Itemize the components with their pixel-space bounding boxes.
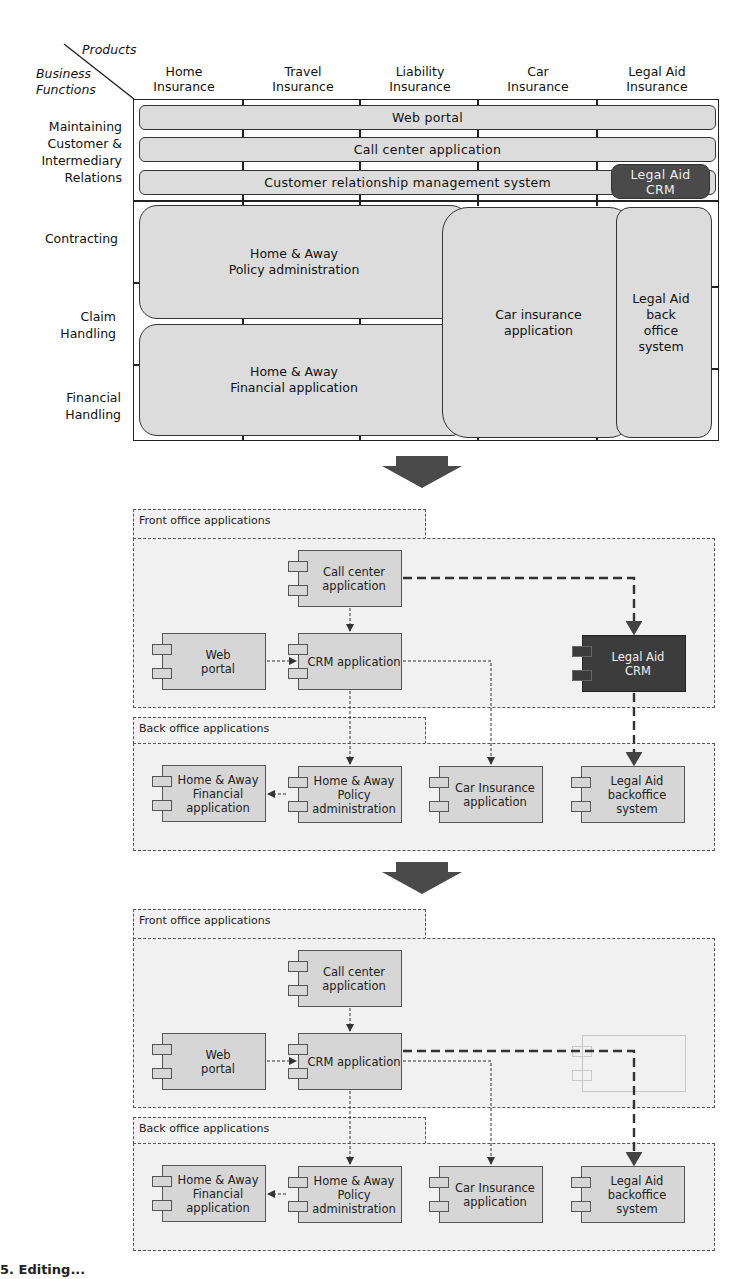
port-icon (288, 961, 308, 972)
component-crm-application[interactable]: CRM application (298, 1033, 402, 1090)
app-home-away-policy-admin[interactable]: Home & AwayPolicy administration (139, 205, 469, 319)
component-legal-aid-backoffice[interactable]: Legal Aidbackofficesystem (581, 1166, 685, 1223)
app-home-away-financial[interactable]: Home & AwayFinancial application (139, 324, 469, 436)
transition-arrow-down-icon (380, 862, 464, 894)
port-icon (288, 668, 308, 679)
app-web-portal[interactable]: Web portal (139, 105, 716, 130)
business-functions-axis-label: Business Functions (36, 66, 98, 98)
component-crm-application[interactable]: CRM application (298, 633, 402, 690)
port-icon (152, 1044, 172, 1055)
port-icon (152, 1068, 172, 1079)
port-icon (288, 1068, 308, 1079)
app-legal-aid-crm[interactable]: Legal AidCRM (611, 164, 710, 199)
component-call-center[interactable]: Call centerapplication (298, 550, 402, 607)
function-header-claim-handling: ClaimHandling (0, 308, 116, 342)
function-header-contracting: Contracting (0, 231, 118, 246)
port-icon (288, 585, 308, 596)
port-icon (429, 801, 449, 812)
product-header-car: CarInsurance (483, 64, 593, 94)
port-icon (288, 777, 308, 788)
port-icon (152, 644, 172, 655)
port-icon (288, 985, 308, 996)
port-icon (572, 646, 592, 657)
port-icon (152, 800, 172, 811)
figure-caption-partial: 5. Editing... (0, 1262, 85, 1277)
port-icon (288, 1201, 308, 1212)
port-icon (288, 1044, 308, 1055)
app-car-insurance[interactable]: Car insuranceapplication (442, 207, 635, 438)
port-icon (152, 776, 172, 787)
product-header-home: HomeInsurance (129, 64, 239, 94)
port-icon (572, 1070, 592, 1081)
back-office-package-label: Back office applications (133, 717, 426, 744)
component-legal-aid-crm[interactable]: Legal AidCRM (582, 635, 686, 692)
port-icon (152, 1200, 172, 1211)
port-icon (571, 1201, 591, 1212)
product-header-liability: LiabilityInsurance (365, 64, 475, 94)
component-home-away-financial[interactable]: Home & AwayFinancialapplication (162, 1165, 266, 1222)
products-axis-label: Products (82, 42, 136, 57)
port-icon (429, 1177, 449, 1188)
transition-arrow-down-icon (380, 456, 464, 488)
port-icon (571, 777, 591, 788)
port-icon (288, 561, 308, 572)
port-icon (288, 644, 308, 655)
component-removed-legal-aid-crm-placeholder (582, 1035, 686, 1092)
component-web-portal[interactable]: Webportal (162, 1033, 266, 1090)
row-divider (133, 200, 719, 202)
component-web-portal[interactable]: Webportal (162, 633, 266, 690)
app-legal-aid-back-office[interactable]: Legal Aidbackofficesystem (616, 207, 712, 438)
function-header-maintaining-relations: Maintaining Customer & Intermediary Rela… (4, 118, 122, 186)
component-car-insurance[interactable]: Car Insuranceapplication (439, 1166, 543, 1223)
component-legal-aid-backoffice[interactable]: Legal Aidbackofficesystem (581, 766, 685, 823)
component-car-insurance[interactable]: Car Insuranceapplication (439, 766, 543, 823)
front-office-package-label: Front office applications (133, 909, 426, 940)
port-icon (571, 801, 591, 812)
port-icon (429, 777, 449, 788)
component-home-away-policy[interactable]: Home & AwayPolicyadministration (298, 1166, 402, 1223)
port-icon (571, 1177, 591, 1188)
port-icon (572, 670, 592, 681)
function-header-financial-handling: FinancialHandling (3, 389, 121, 423)
component-home-away-policy[interactable]: Home & AwayPolicyadministration (298, 766, 402, 823)
front-office-package-label: Front office applications (133, 509, 426, 540)
product-header-legal-aid: Legal AidInsurance (602, 64, 712, 94)
port-icon (288, 1177, 308, 1188)
port-icon (152, 1176, 172, 1187)
port-icon (152, 668, 172, 679)
port-icon (572, 1046, 592, 1057)
app-call-center[interactable]: Call center application (139, 137, 716, 162)
component-home-away-financial[interactable]: Home & AwayFinancialapplication (162, 765, 266, 822)
product-header-travel: TravelInsurance (248, 64, 358, 94)
port-icon (288, 801, 308, 812)
back-office-package-label: Back office applications (133, 1117, 426, 1144)
port-icon (429, 1201, 449, 1212)
component-call-center[interactable]: Call centerapplication (298, 950, 402, 1007)
